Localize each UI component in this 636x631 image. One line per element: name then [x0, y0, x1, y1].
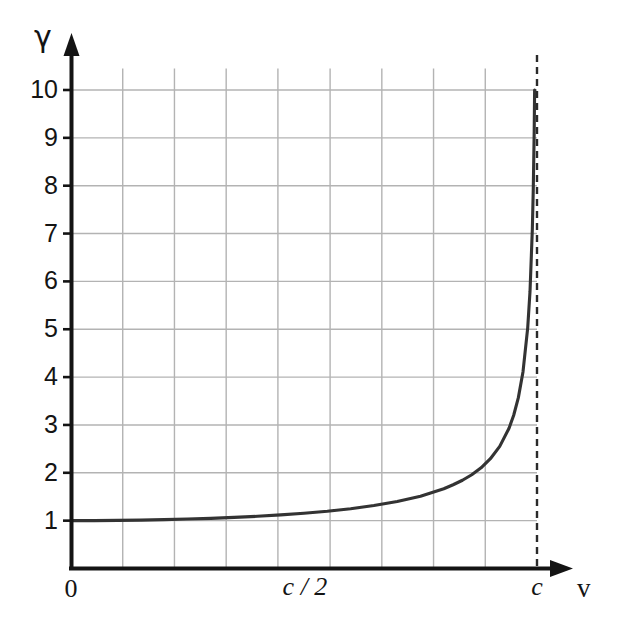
x-axis-label: v	[577, 575, 591, 602]
y-tick-label: 3	[12, 412, 58, 437]
y-tick-label: 9	[12, 125, 58, 150]
y-tick-label: 2	[12, 460, 58, 485]
y-tick-label: 7	[12, 221, 58, 246]
y-tick-label: 5	[12, 316, 58, 341]
y-tick-label: 1	[12, 508, 58, 533]
x-tick-label-origin: 0	[51, 576, 91, 602]
y-tick-label: 10	[12, 77, 58, 102]
lorentz-factor-chart: γ v 12345678910 0 c / 2 c	[0, 0, 636, 631]
plot-area	[0, 0, 636, 631]
y-axis-label: γ	[34, 22, 52, 52]
horizontal-gridlines	[71, 90, 537, 521]
x-tick-label-c: c	[518, 574, 556, 600]
y-tick-label: 4	[12, 364, 58, 389]
y-axis-arrowhead	[64, 33, 80, 56]
y-tick-label: 6	[12, 268, 58, 293]
y-tick-label: 8	[12, 173, 58, 198]
x-tick-label-half-c: c / 2	[255, 574, 355, 600]
lorentz-curve	[71, 90, 535, 521]
